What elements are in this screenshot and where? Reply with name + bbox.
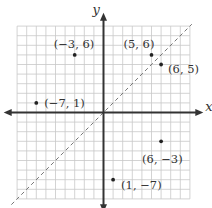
plot-point: (5, 6) [124,37,155,57]
point-label: (−7, 1) [44,96,85,110]
dashed-line-y-equals-x [11,24,191,204]
point-label: (−3, 6) [54,37,95,51]
point-dot-icon [159,139,163,143]
point-dot-icon [150,53,154,57]
point-label: (1, −7) [121,178,162,192]
x-axis-label: x [205,99,212,114]
point-label: (6, 5) [168,62,199,76]
plot-point: (6, −3) [142,139,183,166]
y-axis-arrow-up-icon [100,13,107,21]
point-dot-icon [73,53,77,57]
plot-point: (6, 5) [159,62,199,76]
coordinate-plane: x y (−3, 6)(5, 6)(6, 5)(−7, 1)(6, −3)(1,… [0,0,212,208]
y-axis-arrow-down-icon [100,204,107,208]
point-label: (5, 6) [124,37,155,51]
point-dot-icon [34,101,38,105]
axes: x y [4,2,212,208]
y-axis-label: y [92,2,101,17]
x-axis-arrow-right-icon [195,109,203,116]
point-dot-icon [111,178,115,182]
points: (−3, 6)(5, 6)(6, 5)(−7, 1)(6, −3)(1, −7) [34,37,199,192]
plot-point: (−3, 6) [54,37,95,57]
x-axis-arrow-left-icon [4,109,12,116]
point-dot-icon [159,63,163,67]
point-label: (6, −3) [142,152,183,166]
